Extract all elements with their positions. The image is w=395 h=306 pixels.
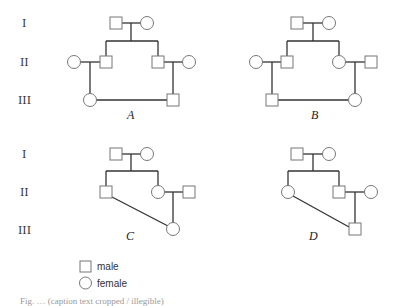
male-symbol [110, 17, 122, 29]
generation-label-III-bottom: III [18, 224, 31, 237]
female-symbol [141, 17, 154, 30]
panel-label-d: D [308, 229, 318, 243]
female-symbol [365, 186, 378, 199]
generation-label-I-bottom: I [22, 148, 26, 161]
panel-label-a: A [126, 108, 135, 122]
legend: male female [80, 261, 128, 289]
male-symbol [183, 186, 195, 198]
legend-male-label: male [97, 261, 119, 272]
legend-male-symbol [80, 261, 91, 272]
male-symbol [100, 186, 112, 198]
generation-label-III-top: III [18, 94, 31, 107]
female-symbol [152, 186, 165, 199]
female-symbol [250, 56, 263, 69]
panel-label-b: B [311, 108, 319, 122]
female-symbol [183, 56, 196, 69]
male-symbol [333, 186, 345, 198]
generation-label-II-top: II [20, 56, 29, 69]
pedigree-panel-b: B [250, 17, 378, 123]
male-symbol [266, 94, 278, 106]
female-symbol [167, 223, 180, 236]
male-symbol [281, 56, 293, 68]
pedigree-diagram: I II III I II III A [0, 0, 395, 306]
pedigree-panel-a: A [68, 17, 196, 123]
male-symbol [152, 56, 164, 68]
generation-label-I-top: I [22, 17, 26, 30]
male-symbol [291, 148, 303, 160]
pedigree-panel-c: C [100, 148, 195, 244]
pedigree-panel-d: D [282, 148, 378, 244]
male-symbol [167, 94, 179, 106]
female-symbol [323, 148, 336, 161]
panel-label-c: C [126, 229, 135, 243]
female-symbol [141, 148, 154, 161]
male-symbol [100, 56, 112, 68]
legend-female-symbol [80, 277, 92, 289]
male-symbol [291, 17, 303, 29]
female-symbol [84, 94, 97, 107]
female-symbol [323, 17, 336, 30]
female-symbol [349, 94, 362, 107]
male-symbol [365, 56, 377, 68]
male-symbol [349, 223, 361, 235]
female-symbol [282, 186, 295, 199]
legend-female-label: female [97, 278, 127, 289]
figure-caption: Fig. … (caption text cropped / illegible… [20, 296, 164, 306]
female-symbol [333, 56, 346, 69]
male-symbol [110, 148, 122, 160]
female-symbol [68, 56, 81, 69]
generation-label-II-bottom: II [20, 186, 29, 199]
